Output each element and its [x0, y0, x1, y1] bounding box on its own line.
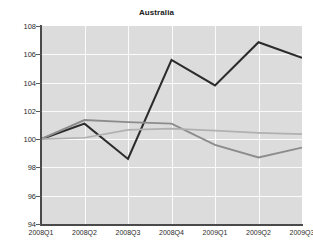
chart-container: Australia 949698100102104106108 2008Q120… [0, 0, 313, 251]
y-tick-102 [36, 111, 41, 112]
y-tick-label-98: 98 [2, 163, 36, 172]
y-tick-106 [36, 54, 41, 55]
y-axis-tick-labels: 949698100102104106108 [0, 0, 36, 251]
x-tick-label-2008Q2: 2008Q2 [63, 229, 107, 236]
x-tick-label-2009Q2: 2009Q2 [237, 229, 281, 236]
y-tick-label-100: 100 [2, 135, 36, 144]
y-tick-96 [36, 196, 41, 197]
y-tick-label-106: 106 [2, 50, 36, 59]
y-tick-label-94: 94 [2, 220, 36, 229]
y-tick-94 [36, 224, 41, 225]
line-series-light-gray [41, 129, 302, 140]
y-tick-label-102: 102 [2, 106, 36, 115]
y-tick-100 [36, 139, 41, 140]
x-tick-label-2008Q4: 2008Q4 [150, 229, 194, 236]
series-lines [41, 26, 302, 224]
x-tick-label-2008Q3: 2008Q3 [106, 229, 150, 236]
y-tick-label-108: 108 [2, 22, 36, 31]
x-tick-label-2008Q1: 2008Q1 [19, 229, 63, 236]
plot-area [41, 26, 302, 224]
y-tick-104 [36, 83, 41, 84]
y-tick-98 [36, 167, 41, 168]
x-tick-label-2009Q3: 2009Q3 [280, 229, 313, 236]
x-tick-label-2009Q1: 2009Q1 [193, 229, 237, 236]
x-axis-line [40, 224, 303, 226]
y-tick-108 [36, 26, 41, 27]
chart-title: Australia [0, 8, 313, 17]
line-series-dark [41, 42, 302, 159]
y-tick-label-96: 96 [2, 191, 36, 200]
y-tick-label-104: 104 [2, 78, 36, 87]
